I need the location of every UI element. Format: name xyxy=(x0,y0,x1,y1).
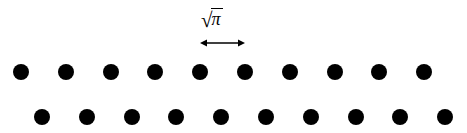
lattice-dot xyxy=(392,109,408,125)
lattice-dot xyxy=(79,109,95,125)
lattice-dot xyxy=(103,64,119,80)
lattice-dot xyxy=(13,64,29,80)
arrow-head-left-icon xyxy=(200,39,207,46)
lattice-dot xyxy=(437,109,453,125)
lattice-dot xyxy=(348,109,364,125)
lattice-dot xyxy=(237,64,253,80)
lattice-dot xyxy=(303,109,319,125)
lattice-dot xyxy=(124,109,140,125)
lattice-dot xyxy=(58,64,74,80)
lattice-dot xyxy=(213,109,229,125)
spacing-label: √π xyxy=(200,8,223,31)
lattice-dot xyxy=(327,64,343,80)
lattice-dot xyxy=(371,64,387,80)
lattice-dot xyxy=(147,64,163,80)
radical-expression: √π xyxy=(200,8,223,31)
lattice-dot xyxy=(192,64,208,80)
spacing-double-arrow xyxy=(192,35,253,51)
lattice-dot xyxy=(34,109,50,125)
lattice-dot xyxy=(282,64,298,80)
arrow-head-right-icon xyxy=(238,39,245,46)
lattice-dot xyxy=(416,64,432,80)
lattice-dot xyxy=(258,109,274,125)
radicand-pi: π xyxy=(211,8,223,28)
lattice-diagram: √π xyxy=(0,0,467,133)
lattice-dot xyxy=(168,109,184,125)
arrow-group xyxy=(200,39,245,46)
